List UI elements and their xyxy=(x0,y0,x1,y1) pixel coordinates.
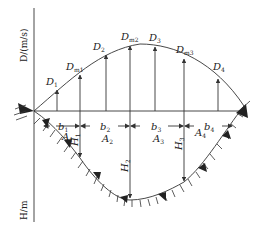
left-bank-marker xyxy=(18,103,34,114)
riverbed-profile xyxy=(34,106,244,200)
bank-markers xyxy=(14,101,250,203)
velocity-labels: D1 Dm1 D2 Dm2 D3 Dm3 D4 xyxy=(45,31,225,88)
label-a3: A3 xyxy=(152,133,164,145)
label-d2: D2 xyxy=(92,41,105,53)
label-h3: H3 xyxy=(173,137,185,151)
label-dm2: Dm2 xyxy=(120,31,139,43)
y-axis-bottom-label: H/m xyxy=(19,200,29,220)
label-b2: b2 xyxy=(100,121,110,133)
label-d1: D1 xyxy=(45,76,58,88)
velocity-arrows xyxy=(57,46,218,111)
velocity-area-diagram: D/(m/s) H/m D1 Dm1 D2 Dm2 D3 Dm3 D4 b1 b… xyxy=(0,0,268,239)
label-dm3: Dm3 xyxy=(175,44,194,56)
label-h2: H2 xyxy=(119,159,131,173)
label-b3: b3 xyxy=(151,121,161,133)
y-axis-top-label: D/(m/s) xyxy=(19,29,29,62)
velocity-curve xyxy=(34,44,244,111)
label-dm1: Dm1 xyxy=(65,61,84,73)
label-a2: A2 xyxy=(101,133,113,145)
label-d4: D4 xyxy=(212,61,225,73)
label-d3: D3 xyxy=(148,32,161,44)
depth-lines: H1 H2 H3 xyxy=(69,111,185,198)
